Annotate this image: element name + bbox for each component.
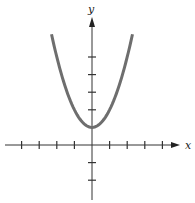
axes: [5, 17, 180, 200]
x-axis-arrow-icon: [171, 142, 180, 148]
x-axis-label: x: [185, 139, 192, 152]
y-axis-label: y: [87, 3, 95, 16]
y-axis-arrow-icon: [89, 17, 95, 27]
parabola-chart: x y: [0, 0, 195, 203]
